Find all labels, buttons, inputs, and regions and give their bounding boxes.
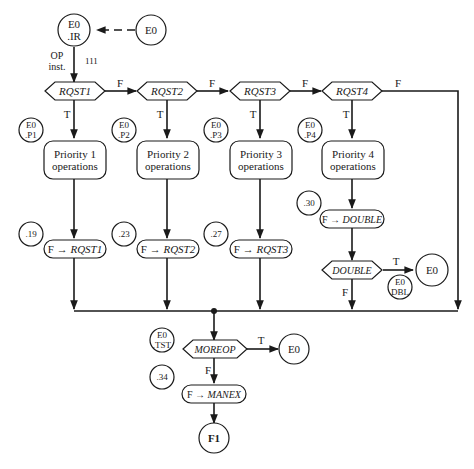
svg-text:operations: operations bbox=[52, 160, 98, 172]
svg-text:T: T bbox=[64, 108, 71, 120]
svg-text:operations: operations bbox=[330, 160, 376, 172]
svg-text:MOREOP: MOREOP bbox=[193, 344, 235, 355]
svg-text:T: T bbox=[157, 108, 164, 120]
svg-text:RQST4: RQST4 bbox=[335, 85, 368, 97]
svg-text:E0: E0 bbox=[395, 277, 405, 287]
svg-text:111: 111 bbox=[85, 56, 98, 66]
svg-text:F: F bbox=[117, 77, 123, 89]
svg-text:F: F bbox=[205, 364, 211, 376]
svg-text:operations: operations bbox=[145, 160, 191, 172]
svg-text:.34: .34 bbox=[156, 372, 168, 382]
svg-text:DBL: DBL bbox=[391, 287, 409, 297]
svg-text:F → DOUBLE: F → DOUBLE bbox=[322, 214, 382, 225]
svg-text:inst.: inst. bbox=[49, 61, 66, 72]
svg-text:RQST2: RQST2 bbox=[150, 85, 183, 97]
svg-text:F: F bbox=[395, 77, 401, 89]
svg-text:Priority 2: Priority 2 bbox=[147, 148, 189, 160]
svg-text:T: T bbox=[258, 334, 265, 346]
svg-text:operations: operations bbox=[238, 160, 284, 172]
svg-text:Priority 3: Priority 3 bbox=[240, 148, 282, 160]
flowchart: E0 .IR E0 OP inst. 111 RQST1 RQST2 RQST3… bbox=[0, 0, 474, 469]
svg-text:F → MANEX: F → MANEX bbox=[187, 389, 242, 400]
svg-text:E0: E0 bbox=[426, 264, 439, 276]
svg-text:F: F bbox=[302, 77, 308, 89]
svg-text:E0: E0 bbox=[68, 18, 81, 30]
svg-text:.27: .27 bbox=[210, 229, 222, 239]
svg-text:.P3: .P3 bbox=[210, 130, 222, 140]
svg-text:.30: .30 bbox=[303, 198, 315, 208]
svg-text:OP: OP bbox=[51, 50, 64, 61]
svg-text:E0: E0 bbox=[305, 120, 315, 130]
svg-text:T: T bbox=[393, 255, 400, 267]
svg-text:.P2: .P2 bbox=[118, 130, 130, 140]
svg-text:.P1: .P1 bbox=[25, 130, 37, 140]
svg-text:.IR: .IR bbox=[67, 30, 81, 42]
svg-text:E0: E0 bbox=[119, 120, 129, 130]
svg-text:F → RQST2: F → RQST2 bbox=[141, 243, 196, 255]
svg-text:.TST: .TST bbox=[153, 340, 172, 350]
svg-text:T: T bbox=[343, 108, 350, 120]
svg-text:RQST3: RQST3 bbox=[243, 85, 276, 97]
svg-text:RQST1: RQST1 bbox=[58, 85, 91, 97]
svg-text:DOUBLE: DOUBLE bbox=[331, 265, 371, 276]
svg-text:E0: E0 bbox=[288, 343, 301, 355]
svg-text:.23: .23 bbox=[118, 229, 130, 239]
svg-text:.P4: .P4 bbox=[304, 130, 316, 140]
svg-text:E0: E0 bbox=[145, 24, 158, 36]
svg-text:Priority 1: Priority 1 bbox=[54, 148, 96, 160]
svg-text:E0: E0 bbox=[26, 120, 36, 130]
svg-text:F1: F1 bbox=[208, 432, 220, 444]
svg-text:T: T bbox=[250, 108, 257, 120]
svg-text:F → RQST1: F → RQST1 bbox=[48, 243, 102, 255]
svg-text:Priority 4: Priority 4 bbox=[332, 148, 374, 160]
svg-text:F: F bbox=[342, 286, 348, 298]
svg-text:E0: E0 bbox=[157, 330, 167, 340]
svg-text:F → RQST3: F → RQST3 bbox=[234, 243, 289, 255]
svg-text:F: F bbox=[209, 77, 215, 89]
svg-text:.19: .19 bbox=[25, 229, 37, 239]
junction-dot bbox=[211, 308, 217, 314]
svg-text:E0: E0 bbox=[211, 120, 221, 130]
